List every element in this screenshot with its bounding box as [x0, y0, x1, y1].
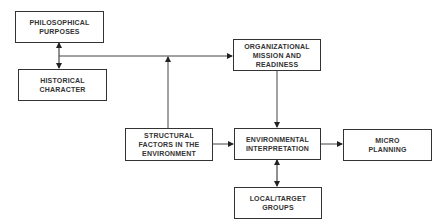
- node-organizational-mission: ORGANIZATIONAL MISSION AND READINESS: [233, 39, 321, 71]
- node-environmental-interpretation: ENVIRONMENTAL INTERPRETATION: [234, 128, 321, 160]
- node-micro-planning: MICRO PLANNING: [343, 129, 432, 161]
- node-structural-factors: STRUCTURAL FACTORS IN THE ENVIRONMENT: [125, 128, 213, 161]
- node-philosophical-purposes: PHILOSOPHICAL PURPOSES: [15, 11, 104, 43]
- node-local-target-groups: LOCAL/TARGET GROUPS: [234, 187, 322, 219]
- node-historical-character: HISTORICAL CHARACTER: [18, 69, 107, 101]
